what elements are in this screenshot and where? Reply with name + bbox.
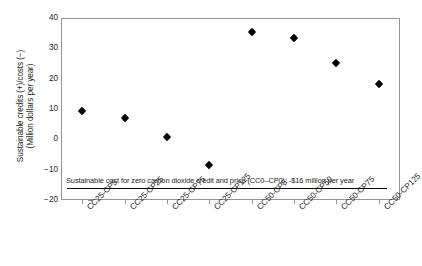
y-axis-ticks: 403020100−10−20 bbox=[30, 18, 58, 200]
x-tick-mark bbox=[82, 200, 83, 204]
y-tick-label: 20 bbox=[34, 75, 58, 83]
y-tick-label: 30 bbox=[34, 44, 58, 52]
y-tick-label: 10 bbox=[34, 105, 58, 113]
x-tick-mark bbox=[252, 200, 253, 204]
x-tick-mark bbox=[336, 200, 337, 204]
x-tick-mark bbox=[209, 200, 210, 204]
y-tick-label: −20 bbox=[34, 196, 58, 204]
y-tick-label: 40 bbox=[34, 14, 58, 22]
plot-area bbox=[61, 18, 400, 200]
y-tick-label: −10 bbox=[34, 166, 58, 174]
x-tick-mark bbox=[379, 200, 380, 204]
x-tick-mark bbox=[167, 200, 168, 204]
y-axis-title-line-1: Sustainable credits (+)/costs (−) bbox=[16, 50, 26, 162]
x-tick-mark bbox=[294, 200, 295, 204]
y-tick-label: 0 bbox=[34, 135, 58, 143]
x-tick-mark bbox=[125, 200, 126, 204]
